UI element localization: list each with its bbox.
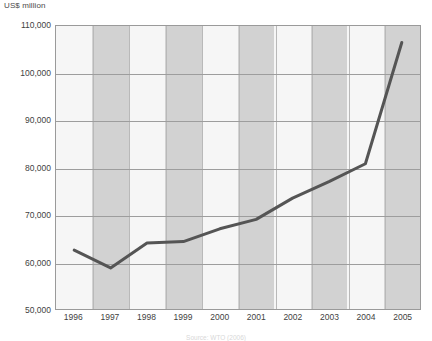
x-axis-tick-labels: 1996199719981999200020012002200320042005 (55, 312, 421, 322)
source-note: Source: WTO (2006) (0, 334, 432, 341)
x-tick-label: 2002 (275, 312, 312, 322)
x-tick-label: 2005 (384, 312, 421, 322)
y-tick-label: 70,000 (1, 210, 51, 220)
line-chart: US$ million 110,000 100,000 90,000 80,00… (0, 0, 432, 341)
y-tick-label: 110,000 (1, 20, 51, 30)
series-polyline (74, 43, 402, 268)
x-tick-label: 2000 (201, 312, 238, 322)
x-tick-label: 1997 (92, 312, 129, 322)
x-tick-label: 1999 (165, 312, 202, 322)
x-tick-label: 2004 (348, 312, 385, 322)
y-tick-label: 50,000 (1, 305, 51, 315)
y-tick-label: 90,000 (1, 115, 51, 125)
y-tick-label: 60,000 (1, 258, 51, 268)
data-series-line (56, 26, 420, 309)
y-axis-tick-labels: 110,000 100,000 90,000 80,000 70,000 60,… (0, 0, 51, 341)
y-tick-label: 80,000 (1, 163, 51, 173)
x-tick-label: 2003 (311, 312, 348, 322)
x-tick-label: 1996 (55, 312, 92, 322)
y-tick-label: 100,000 (1, 68, 51, 78)
plot-area (55, 25, 421, 310)
x-tick-label: 2001 (238, 312, 275, 322)
x-tick-label: 1998 (128, 312, 165, 322)
